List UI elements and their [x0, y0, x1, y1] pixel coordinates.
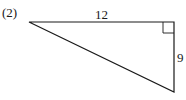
top-side-length: 12 — [95, 8, 108, 21]
right-angle-marker — [163, 22, 174, 33]
triangle-outline — [29, 22, 174, 92]
right-side-length: 9 — [177, 51, 184, 64]
right-triangle — [0, 0, 186, 100]
